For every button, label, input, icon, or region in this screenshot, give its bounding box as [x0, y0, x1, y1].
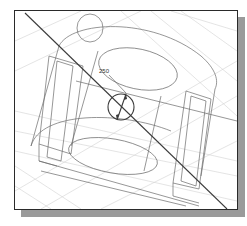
drawing-viewport[interactable]: 250: [14, 10, 238, 210]
leader-line: [109, 75, 126, 93]
construction-grid: [15, 11, 237, 209]
wireframe-drawing: 250: [15, 11, 237, 209]
dimension-label[interactable]: 250: [99, 68, 110, 74]
diameter-line: [117, 94, 126, 120]
